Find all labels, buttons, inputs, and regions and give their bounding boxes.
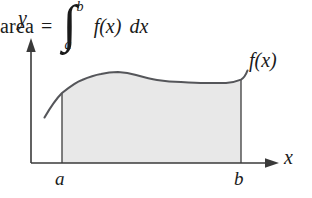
figure-canvas [0,0,312,198]
tick-label-a: a [55,169,65,188]
y-axis-label: y [18,8,27,28]
shaded-area-region [62,72,241,163]
area-under-curve-figure: y x a b f(x) area = ∫ b a f(x) dx [0,0,312,198]
integral-lower-limit: a [64,37,71,53]
tick-label-b: b [234,169,244,188]
y-axis-arrowhead [26,38,35,52]
x-axis-label: x [284,147,293,167]
function-curve-label: f(x) [249,50,277,70]
integral-upper-limit: b [76,0,83,15]
integral-with-limits: ∫ b a [62,0,76,52]
x-axis-arrowhead [265,158,279,168]
